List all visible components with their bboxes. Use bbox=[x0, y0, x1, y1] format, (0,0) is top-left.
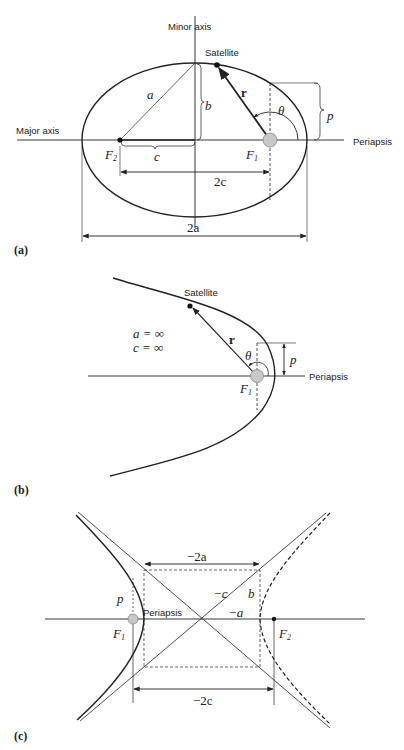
panel-b-parabola: Satellite Periapsis r θ p F1 a = ∞ c = ∞… bbox=[14, 278, 348, 497]
f1-label: F1 bbox=[239, 381, 252, 397]
r-label: r bbox=[229, 332, 235, 347]
asymptote-ascending bbox=[80, 513, 326, 721]
periapsis-label: Periapsis bbox=[309, 371, 348, 382]
orbit-diagram: Minor axis Satellite Major axis Periapsi… bbox=[0, 0, 404, 750]
f1-label: F1 bbox=[112, 626, 125, 642]
major-axis-label: Major axis bbox=[16, 125, 60, 136]
c-infinity-label: c = ∞ bbox=[133, 340, 163, 355]
satellite-dot bbox=[214, 62, 220, 68]
a-label: a bbox=[147, 87, 154, 102]
focus-f2-dot bbox=[272, 617, 276, 621]
satellite-label: Satellite bbox=[205, 47, 239, 58]
a-infinity-label: a = ∞ bbox=[133, 326, 164, 341]
panel-c-label: (c) bbox=[14, 729, 27, 743]
c-label: c bbox=[154, 149, 160, 164]
p-label: p bbox=[116, 591, 124, 606]
p-label: p bbox=[289, 352, 297, 367]
satellite-label: Satellite bbox=[184, 287, 218, 298]
2c-label: 2c bbox=[214, 174, 227, 189]
2a-label: 2a bbox=[187, 220, 200, 235]
f2-label: F2 bbox=[104, 147, 117, 163]
periapsis-label: Periapsis bbox=[353, 136, 392, 147]
b-label: b bbox=[205, 98, 212, 113]
f2-label: F2 bbox=[278, 626, 291, 642]
b-brace bbox=[197, 64, 204, 140]
focus-f1-body bbox=[128, 614, 138, 624]
theta-label: θ bbox=[245, 348, 252, 363]
p-label: p bbox=[326, 108, 334, 123]
neg-c-label: −c bbox=[213, 586, 228, 601]
focus-f1-body bbox=[251, 370, 264, 383]
satellite-dot bbox=[187, 303, 192, 308]
panel-a-label: (a) bbox=[14, 243, 28, 257]
neg-a-label: −a bbox=[228, 605, 244, 620]
f1-label: F1 bbox=[245, 147, 258, 163]
minor-axis-label: Minor axis bbox=[168, 21, 212, 32]
r-label: r bbox=[241, 85, 247, 100]
panel-c-hyperbola: −2a −c b −a p Periapsis F1 F2 −2c (c) bbox=[14, 512, 365, 743]
c-brace bbox=[121, 142, 195, 149]
neg-2a-label: −2a bbox=[187, 549, 207, 564]
panel-a-ellipse: Minor axis Satellite Major axis Periapsi… bbox=[14, 16, 392, 257]
a-segment bbox=[120, 63, 195, 140]
focus-f2-dot bbox=[117, 137, 122, 142]
neg-2c-label: −2c bbox=[193, 693, 213, 708]
periapsis-label: Periapsis bbox=[143, 607, 182, 618]
r-vector bbox=[193, 308, 257, 376]
panel-b-label: (b) bbox=[14, 483, 29, 497]
focus-f1-body bbox=[263, 133, 277, 147]
theta-label: θ bbox=[278, 103, 285, 118]
p-brace bbox=[314, 83, 324, 140]
b-label: b bbox=[248, 586, 255, 601]
hyperbola-branch-dashed bbox=[260, 513, 330, 724]
parabola-orbit bbox=[110, 278, 275, 476]
